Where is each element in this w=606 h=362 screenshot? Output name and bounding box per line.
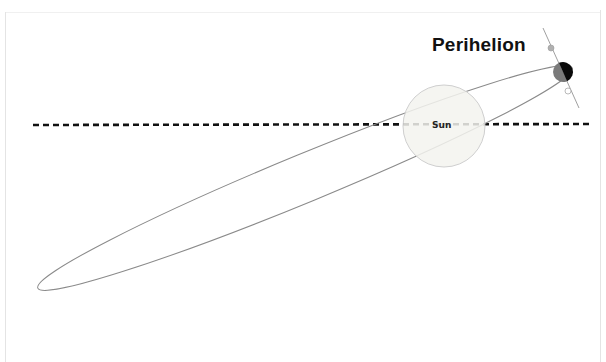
- perihelion-label: Perihelion: [432, 34, 526, 56]
- orbit-ellipse: [29, 46, 582, 311]
- axis-marker-bottom: [565, 88, 571, 94]
- axis-marker-top: [548, 45, 554, 51]
- planet-icon: [550, 59, 576, 85]
- sun-label: Sun: [432, 120, 451, 130]
- dashed-reference-line: [33, 124, 592, 125]
